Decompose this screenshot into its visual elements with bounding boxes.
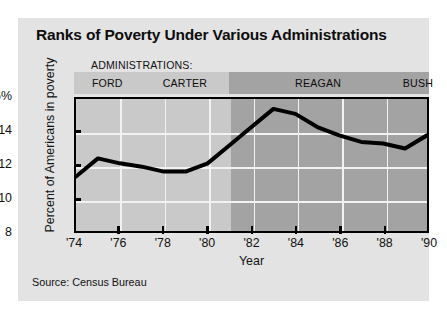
y-tick-mark (74, 130, 81, 133)
x-tick-mark (162, 226, 165, 234)
chart-figure: Ranks of Poverty Under Various Administr… (18, 18, 429, 301)
x-tick-label: '90 (407, 236, 447, 250)
administration-band-strip: FORDCARTERREAGANBUSH (74, 72, 429, 94)
y-axis-label: Percent of Americans in poverty (43, 50, 57, 240)
y-tick-label: 8 (5, 225, 12, 239)
x-tick-mark (384, 226, 387, 234)
x-axis-label: Year (74, 254, 429, 268)
x-tick-mark (251, 226, 254, 234)
x-tick-label: '84 (274, 236, 318, 250)
x-tick-label: '88 (363, 236, 407, 250)
y-tick-label: 14 (0, 123, 12, 137)
y-tick-mark (74, 164, 81, 167)
x-tick-label: '78 (141, 236, 185, 250)
chart-title: Ranks of Poverty Under Various Administr… (36, 26, 387, 44)
administration-label-bush: BUSH (407, 72, 429, 94)
x-tick-label: '80 (185, 236, 229, 250)
x-tick-mark (117, 226, 120, 234)
y-tick-label: 10 (0, 191, 12, 205)
poverty-line-series (76, 99, 427, 231)
administration-label-carter: CARTER (141, 72, 230, 94)
administration-label-ford: FORD (74, 72, 141, 94)
administrations-header: ADMINISTRATIONS: (91, 59, 192, 71)
x-tick-mark (339, 226, 342, 234)
source-note: Source: Census Bureau (32, 276, 147, 288)
y-tick-label: 16% (0, 89, 12, 103)
y-tick-label: 12 (0, 157, 12, 171)
plot-area (74, 97, 429, 233)
x-tick-mark (295, 226, 298, 234)
x-tick-label: '86 (318, 236, 362, 250)
x-tick-label: '76 (96, 236, 140, 250)
y-tick-mark (74, 198, 81, 201)
x-tick-label: '82 (230, 236, 274, 250)
x-tick-label: '74 (52, 236, 96, 250)
administration-label-reagan: REAGAN (229, 72, 407, 94)
x-tick-mark (206, 226, 209, 234)
